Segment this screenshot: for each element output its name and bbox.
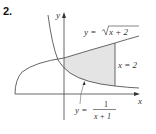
reciprocal-label-lhs: y = xyxy=(74,105,87,115)
sqrt-label-lhs: y = xyxy=(83,27,96,37)
label-pointer xyxy=(80,83,84,104)
boundary-label: x = 2 xyxy=(117,60,138,70)
reciprocal-label-numerator: 1 xyxy=(104,100,108,109)
pointer-arrow-icon xyxy=(83,81,86,85)
x-axis-label: x xyxy=(137,96,142,106)
graph: y x y = x + 2 x = 2 y = 1 x + 1 xyxy=(0,0,156,134)
reciprocal-label-denominator: x + 1 xyxy=(93,112,111,121)
y-axis-label: y xyxy=(55,10,60,20)
y-axis-arrow-icon xyxy=(62,12,66,18)
shaded-region xyxy=(64,43,115,86)
sqrt-label-radicand: x + 2 xyxy=(108,27,129,37)
